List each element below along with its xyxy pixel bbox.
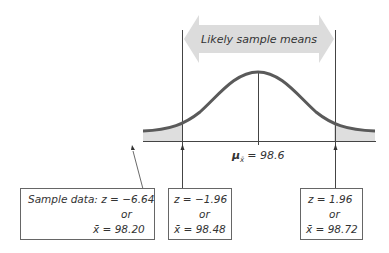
sample-pointer-line — [133, 151, 143, 189]
lower-xbar-value: x̄ = 98.48 — [174, 223, 226, 235]
lower-or: or — [199, 208, 210, 220]
upper-xbar-value: x̄ = 98.72 — [306, 223, 358, 235]
sample-or: or — [121, 208, 132, 220]
lower-z-value: z = −1.96 — [174, 193, 227, 205]
lower-critical-box: z = −1.96 or x̄ = 98.48 — [168, 188, 232, 240]
upper-or: or — [329, 208, 340, 220]
sample-pointer-tip — [131, 145, 135, 150]
sample-z-value: Sample data: z = −6.64 — [28, 193, 154, 205]
upper-z-value: z = 1.96 — [308, 193, 352, 205]
upper-arrow-tip — [334, 144, 338, 150]
mean-label: μx̄= 98.6 — [231, 149, 284, 164]
sample-xbar-value: x̄ = 98.20 — [93, 223, 145, 235]
lower-arrow-tip — [181, 144, 185, 150]
sample-data-box: Sample data: z = −6.64 or x̄ = 98.20 — [20, 188, 155, 240]
banner-label: Likely sample means — [201, 33, 317, 46]
upper-critical-box: z = 1.96 or x̄ = 98.72 — [300, 188, 363, 240]
